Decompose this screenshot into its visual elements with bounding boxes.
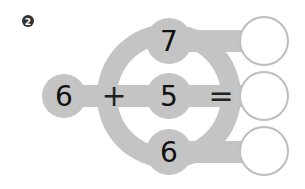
addition-diagram: 2 6 + 7 5 6 = <box>0 0 305 189</box>
svg-text:2: 2 <box>25 17 31 27</box>
left-operand: 6 <box>55 80 73 113</box>
answer-circle-middle[interactable] <box>240 72 288 120</box>
plus-sign: + <box>101 78 126 113</box>
answer-circle-top[interactable] <box>240 17 288 65</box>
answer-circle-bottom[interactable] <box>240 127 288 175</box>
addend-bottom: 6 <box>160 136 178 169</box>
equals-sign: = <box>208 78 233 113</box>
addend-top: 7 <box>160 25 178 58</box>
problem-number-badge: 2 <box>22 15 34 27</box>
addend-middle: 5 <box>160 80 178 113</box>
